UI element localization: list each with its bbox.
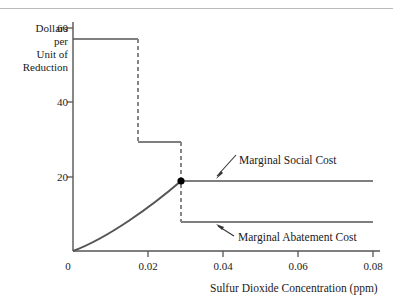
- msc-curve: [73, 181, 181, 251]
- chart-svg: 60 40 20 0 0.02 0.04 0.06 0.08: [0, 0, 393, 303]
- intersection-point-marker: [177, 177, 184, 184]
- marginal-social-cost-annotation: Marginal Social Cost: [216, 154, 337, 179]
- mac-label: Marginal Abatement Cost: [238, 231, 357, 244]
- x-tick-label-004: 0.04: [213, 260, 233, 272]
- y-tick-label-20: 20: [57, 171, 69, 183]
- x-tick-label-0: 0: [65, 260, 71, 272]
- figure-container: Dollars per Unit of Reduction 60 40 20 0…: [0, 0, 393, 303]
- x-tick-label-006: 0.06: [288, 260, 308, 272]
- msc-arrowhead-icon: [216, 171, 223, 179]
- x-tick-label-008: 0.08: [363, 260, 383, 272]
- x-tick-label-002: 0.02: [138, 260, 157, 272]
- y-tick-label-40: 40: [57, 96, 69, 108]
- marginal-abatement-cost-annotation: Marginal Abatement Cost: [216, 224, 357, 244]
- marginal-abatement-cost-series: [73, 39, 373, 222]
- x-axis-caption: Sulfur Dioxide Concentration (ppm): [210, 282, 378, 295]
- y-tick-label-60: 60: [57, 22, 69, 34]
- msc-label: Marginal Social Cost: [239, 154, 337, 167]
